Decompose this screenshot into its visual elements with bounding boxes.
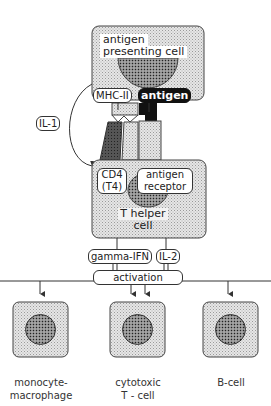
caption-line1: cytotoxic <box>103 376 173 389</box>
activation-label: activation <box>93 270 183 285</box>
receptor-line1: antigen <box>140 169 190 181</box>
caption-line2: T - cell <box>103 389 173 402</box>
caption-line1: monocyte- <box>6 376 76 389</box>
antigen-receptor-label: antigen receptor <box>137 168 193 194</box>
cytotoxic-t-cell <box>110 302 165 357</box>
monocyte-macrophage-cell <box>13 302 68 357</box>
il1-label: IL-1 <box>36 116 60 131</box>
antigen-label: antigen <box>138 88 191 103</box>
gamma-ifn-label: gamma-IFN <box>88 249 152 264</box>
t-helper-label-line2: cell <box>118 220 168 232</box>
caption-line1: B-cell <box>196 376 266 389</box>
il2-label: IL-2 <box>156 249 180 264</box>
cd4-line2: (T4) <box>100 181 124 193</box>
target-caption-monocyte: monocyte- macrophage <box>6 376 76 402</box>
mhc-ii-label: MHC-II <box>93 88 132 103</box>
cd4-line1: CD4 <box>100 169 124 181</box>
il1-arrow <box>70 84 93 166</box>
target-caption-bcell: B-cell <box>196 376 266 389</box>
target-caption-cytotoxic: cytotoxic T - cell <box>103 376 173 402</box>
receptor-line2: receptor <box>140 181 190 193</box>
receptor-connectors <box>100 96 161 160</box>
diagram-canvas <box>0 0 271 406</box>
cd4-label: CD4 (T4) <box>97 168 127 194</box>
apc-label-line2: presenting cell <box>100 46 187 58</box>
b-cell <box>203 302 258 357</box>
caption-line2: macrophage <box>6 389 76 402</box>
